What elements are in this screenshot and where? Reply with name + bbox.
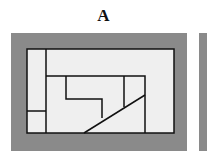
floor-plan-diagram xyxy=(0,0,207,159)
second-panel-edge xyxy=(199,33,207,151)
inner-area xyxy=(27,49,174,133)
